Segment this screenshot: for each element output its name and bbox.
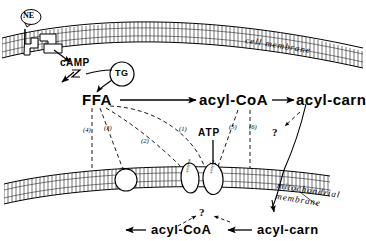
- acyl-carn-label: acyl-carn: [296, 92, 366, 107]
- camp-label: cAMP: [60, 58, 90, 68]
- mechanism-label-5: (5): [229, 124, 237, 131]
- dashed-arrow-question-right: [285, 112, 300, 126]
- mechanism-label-4: (4): [83, 127, 91, 134]
- dashed-arrow-5: [216, 110, 238, 172]
- question-mark-matrix: ?: [199, 207, 205, 218]
- dashed-matrix-right: [214, 216, 230, 222]
- acyl-coa-label: acyl-CoA: [199, 92, 268, 107]
- tg-label: TG: [115, 69, 129, 78]
- matrix-acyl-coa-label: acyl-CoA: [151, 223, 211, 236]
- atp-label: ATP: [198, 128, 220, 138]
- ne-label: NE: [23, 12, 34, 20]
- matrix-acyl-carn-label: acyl-carn: [257, 223, 319, 236]
- ffa-label: FFA: [82, 92, 112, 107]
- question-mark-cytosol: ?: [272, 127, 278, 138]
- mechanism-label-1: (1): [179, 126, 187, 133]
- membrane-pore-circle: [115, 169, 137, 191]
- mechanism-label-6: (6): [249, 124, 257, 131]
- mechanism-label-3: (3): [104, 125, 112, 132]
- mechanism-label-2: (2): [141, 138, 149, 145]
- dashed-arrow-3: [100, 108, 124, 172]
